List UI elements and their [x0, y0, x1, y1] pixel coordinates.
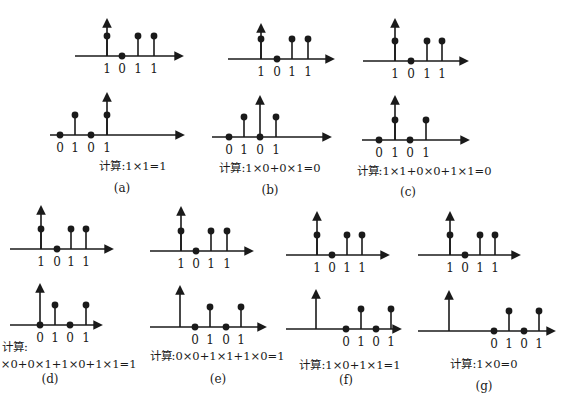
stem: 0	[461, 252, 469, 275]
stem-dot	[373, 326, 380, 333]
tick-label: 0	[36, 331, 44, 345]
stem-dot	[54, 246, 61, 253]
stem: 1	[240, 114, 248, 157]
stem-dot	[289, 36, 296, 43]
stem: 1	[288, 36, 296, 79]
stem-dot	[492, 232, 499, 239]
stem: 1	[438, 38, 446, 81]
stem: 1	[82, 226, 90, 269]
panel-b: 10110101计算:1×0+0×1=0(b)	[212, 25, 333, 197]
tick-label: 0	[225, 143, 233, 157]
stem-dot	[67, 322, 74, 329]
tick-label: 1	[446, 261, 454, 275]
tick-label: 0	[407, 67, 415, 81]
calc-expression: 计算:1×0+0×1=0	[219, 161, 320, 175]
tick-label: 1	[103, 62, 111, 76]
stem-dot	[238, 304, 245, 311]
sequence-top-plot: 1011	[418, 213, 519, 275]
tick-label: 1	[223, 257, 231, 271]
stem: 0	[375, 137, 383, 160]
tick-label: 1	[150, 62, 158, 76]
stem: 1	[304, 36, 312, 79]
stem: 1	[67, 226, 75, 269]
panel-caption: (d)	[41, 372, 58, 386]
tick-label: 1	[257, 65, 265, 79]
stem: 0	[225, 134, 233, 157]
stem: 0	[273, 56, 281, 79]
tick-label: 0	[273, 65, 281, 79]
stem: 0	[87, 132, 95, 155]
tick-label: 1	[288, 65, 296, 79]
tick-label: 0	[87, 141, 95, 155]
tick-label: 1	[37, 255, 45, 269]
tick-label: 1	[237, 333, 245, 347]
stem-dot	[193, 248, 200, 255]
stem: 1	[223, 228, 231, 271]
stem: 1	[103, 112, 111, 155]
tick-label: 1	[177, 257, 185, 271]
stem-dot	[506, 308, 513, 315]
tick-label: 1	[313, 261, 321, 275]
panel-caption: (g)	[475, 379, 492, 393]
stem-dot	[72, 112, 79, 119]
calc-expression: 计算:1×0+1×1=1	[299, 358, 400, 372]
stem-dot	[257, 134, 264, 141]
tick-label: 1	[505, 337, 513, 351]
tick-label: 1	[103, 141, 111, 155]
stem: 1	[313, 232, 321, 275]
tick-label: 1	[423, 67, 431, 81]
stem: 0	[406, 137, 414, 160]
stem: 0	[328, 252, 336, 275]
stem: 1	[391, 117, 399, 160]
stem: 0	[222, 324, 230, 347]
panel-caption: (b)	[261, 183, 278, 197]
tick-label: 1	[82, 331, 90, 345]
stem-dot	[462, 252, 469, 259]
sequence-shifted-plot: 0101	[10, 285, 101, 345]
stem: 1	[103, 33, 111, 76]
tick-label: 1	[304, 65, 312, 79]
stem-dot	[119, 53, 126, 60]
tick-label: 0	[375, 146, 383, 160]
tick-label: 1	[82, 255, 90, 269]
stem-dot	[52, 302, 59, 309]
stem: 1	[257, 36, 265, 79]
sequence-shifted-plot: 0101	[418, 292, 554, 351]
stem: 1	[134, 33, 142, 76]
stem-dot	[68, 226, 75, 233]
stem: 1	[177, 228, 185, 271]
stem-dot	[151, 33, 158, 40]
calc-expression: 计算:1×1=1	[99, 159, 166, 173]
tick-label: 0	[53, 255, 61, 269]
stem: 0	[256, 134, 264, 157]
tick-label: 1	[207, 257, 215, 271]
stem-dot	[258, 36, 265, 43]
stem: 0	[53, 246, 61, 269]
stem: 1	[272, 114, 280, 157]
stem-dot	[224, 228, 231, 235]
calc-expression: 计算:1×1+0×0+1×1=0	[357, 164, 492, 178]
stem-dot	[178, 228, 185, 235]
panel-caption: (c)	[400, 185, 416, 199]
tick-label: 1	[391, 67, 399, 81]
tick-label: 1	[343, 261, 351, 275]
stem: 1	[51, 302, 59, 345]
stem-dot	[536, 308, 543, 315]
convolution-diagram: 10110101计算:1×1=1(a)10110101计算:1×0+0×1=0(…	[0, 0, 564, 402]
stem: 1	[71, 112, 79, 155]
stem: 1	[37, 226, 45, 269]
stem-dot	[343, 326, 350, 333]
stem: 0	[118, 53, 126, 76]
sequence-top-plot: 1011	[75, 20, 182, 76]
stem-dot	[344, 232, 351, 239]
tick-label: 1	[67, 255, 75, 269]
tick-label: 0	[490, 337, 498, 351]
panel-caption: (f)	[339, 373, 353, 387]
stem: 0	[490, 328, 498, 351]
stem-dot	[37, 322, 44, 329]
tick-label: 0	[342, 335, 350, 349]
sequence-shifted-plot: 0101	[50, 94, 183, 155]
stem: 1	[387, 306, 395, 349]
sequence-shifted-plot: 0101	[286, 291, 400, 349]
stem-dot	[359, 232, 366, 239]
